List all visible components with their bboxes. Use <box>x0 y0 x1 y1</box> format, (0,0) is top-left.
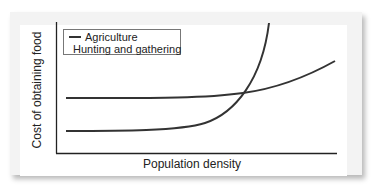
legend-label: Agriculture <box>85 31 138 43</box>
legend-item-hunting-gathering: Hunting and gathering <box>69 43 180 55</box>
legend-label: Hunting and gathering <box>73 43 181 55</box>
hunting-gathering-curve <box>66 61 335 98</box>
y-axis-label: Cost of obtaining food <box>30 32 44 149</box>
x-axis-label: Population density <box>143 157 241 171</box>
legend-swatch-icon <box>69 36 81 38</box>
legend: Agriculture Hunting and gathering <box>63 29 181 55</box>
legend-item-agriculture: Agriculture <box>69 31 180 43</box>
